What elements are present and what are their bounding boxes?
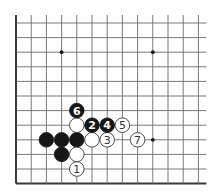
white-stone-move-3: 3	[100, 133, 115, 148]
white-stone-move-1: 1	[70, 162, 85, 177]
move-number-label: 7	[134, 134, 141, 147]
black-stone-icon	[39, 133, 54, 148]
black-stone-move-2: 2	[85, 118, 100, 133]
white-stone	[85, 133, 100, 148]
white-stone-move-7: 7	[130, 133, 145, 148]
board-grid	[16, 15, 206, 184]
move-number-label: 4	[103, 119, 111, 132]
move-number-label: 5	[119, 119, 126, 132]
black-stone	[54, 133, 69, 148]
white-stone-move-5: 5	[115, 118, 130, 133]
black-stone	[39, 133, 54, 148]
star-point-icon	[151, 138, 155, 142]
white-stone	[70, 118, 85, 133]
black-stone	[70, 133, 85, 148]
move-number-label: 2	[88, 119, 96, 132]
white-stone-icon	[70, 147, 85, 162]
black-stone	[54, 147, 69, 162]
white-stone	[70, 147, 85, 162]
black-stone-icon	[54, 147, 69, 162]
white-stone-icon	[85, 133, 100, 148]
move-number-label: 1	[73, 163, 80, 176]
black-stone-icon	[54, 133, 69, 148]
black-stone-move-4: 4	[100, 118, 115, 133]
black-stone-move-6: 6	[70, 103, 85, 118]
star-point-icon	[60, 50, 64, 54]
black-stone-icon	[70, 133, 85, 148]
move-number-label: 6	[73, 105, 81, 118]
white-stone-icon	[70, 118, 85, 133]
go-board: 1234567	[0, 0, 221, 195]
star-point-icon	[151, 50, 155, 54]
move-number-label: 3	[104, 134, 111, 147]
